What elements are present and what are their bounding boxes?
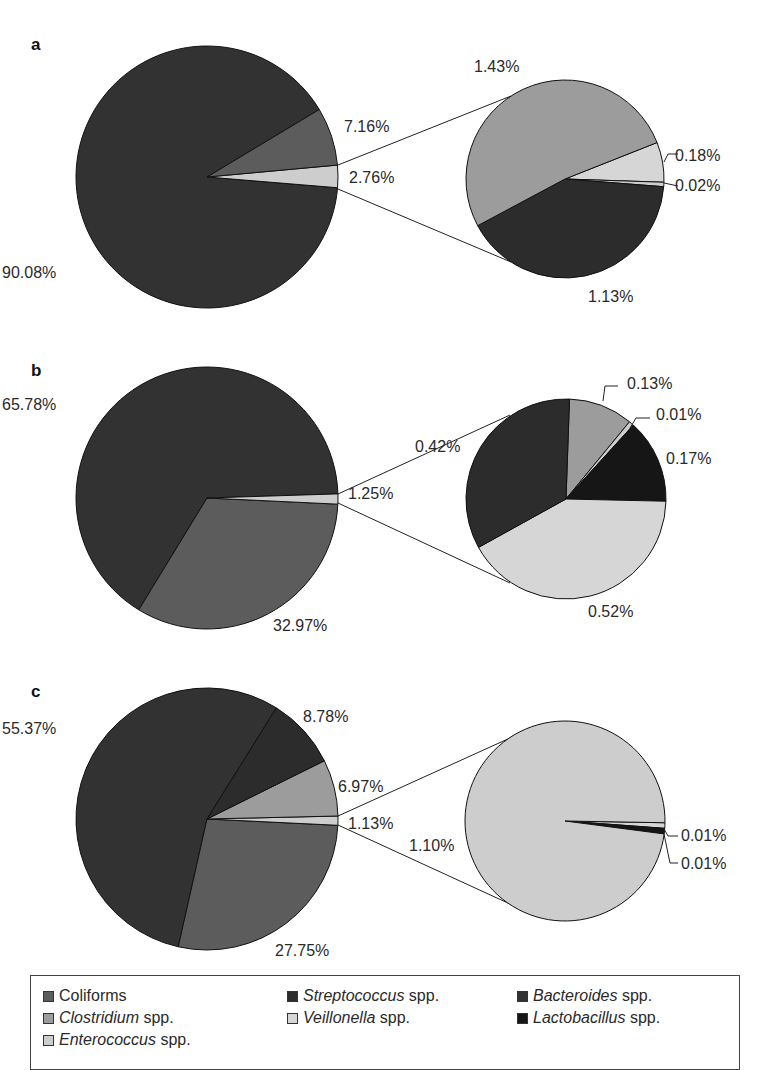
legend-item-streptococcus: Streptococcus spp.	[287, 987, 439, 1005]
panel-c: c55.37%8.78%6.97%1.13%27.75%1.10%0.01%0.…	[2, 682, 726, 959]
main-slice-label: 1.13%	[348, 815, 393, 832]
exploded-slice-label: 0.02%	[675, 177, 720, 194]
main-slice-label: 90.08%	[2, 264, 56, 281]
legend-item-lactobacillus: Lactobacillus spp.	[517, 1009, 660, 1027]
main-slice-label: 32.97%	[273, 617, 327, 634]
panel-b: b65.78%32.97%1.25%0.42%0.13%0.01%0.17%0.…	[2, 361, 711, 634]
legend-item-clostridium: Clostridium spp.	[43, 1009, 174, 1027]
label-leader-line	[603, 386, 618, 401]
swatch-icon	[43, 991, 54, 1002]
main-pie-slice-3	[178, 819, 338, 950]
swatch-icon	[517, 991, 528, 1002]
legend-item-veillonella: Veillonella spp.	[287, 1009, 410, 1027]
panel-label-b: b	[31, 361, 41, 380]
exploded-slice-label: 1.43%	[474, 58, 519, 75]
exploded-slice-label: 0.13%	[627, 375, 672, 392]
legend: Coliforms Streptococcus spp. Bacteroides…	[30, 975, 740, 1070]
exploded-slice-label: 1.10%	[409, 837, 454, 854]
legend-item-coliforms: Coliforms	[43, 987, 127, 1005]
panel-a: a90.08%7.16%2.76%1.43%0.18%0.02%1.13%	[2, 35, 720, 308]
exploded-slice-label: 0.18%	[675, 147, 720, 164]
pie-chart-figure: a90.08%7.16%2.76%1.43%0.18%0.02%1.13% b6…	[0, 0, 766, 975]
exploded-slice-label: 1.13%	[588, 288, 633, 305]
legend-item-bacteroides: Bacteroides spp.	[517, 987, 652, 1005]
main-slice-label: 7.16%	[344, 118, 389, 135]
main-slice-label: 6.97%	[338, 778, 383, 795]
main-slice-label: 2.76%	[349, 169, 394, 186]
label-leader-line	[664, 834, 678, 863]
label-leader-line	[664, 829, 678, 836]
exploded-slice-label: 0.01%	[681, 855, 726, 872]
main-slice-label: 27.75%	[275, 942, 329, 959]
exploded-slice-label: 0.42%	[415, 438, 460, 455]
exploded-pie-slice-2	[465, 721, 665, 921]
exploded-slice-label: 0.17%	[666, 450, 711, 467]
exploded-slice-label: 0.52%	[588, 603, 633, 620]
main-slice-label: 55.37%	[2, 720, 56, 737]
panel-label-a: a	[31, 35, 41, 54]
swatch-icon	[43, 1013, 54, 1024]
exploded-slice-label: 0.01%	[681, 827, 726, 844]
swatch-icon	[287, 991, 298, 1002]
exploded-slice-label: 0.01%	[656, 406, 701, 423]
main-slice-label: 65.78%	[2, 396, 56, 413]
legend-item-enterococcus: Enterococcus spp.	[43, 1031, 191, 1049]
swatch-icon	[43, 1035, 54, 1046]
swatch-icon	[287, 1013, 298, 1024]
panel-label-c: c	[31, 682, 40, 701]
swatch-icon	[517, 1013, 528, 1024]
main-slice-label: 1.25%	[348, 485, 393, 502]
main-slice-label: 8.78%	[303, 708, 348, 725]
